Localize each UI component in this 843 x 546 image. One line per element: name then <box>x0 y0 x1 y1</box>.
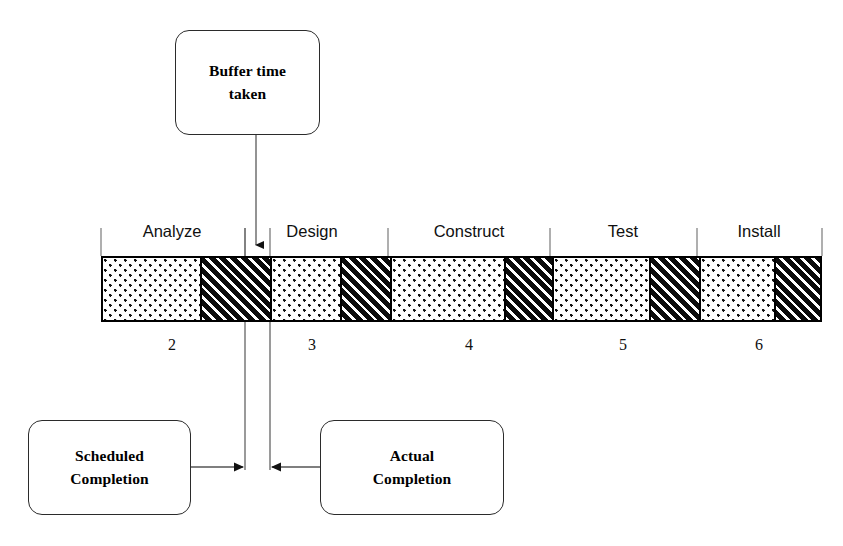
phase-timeline-bar <box>101 256 822 322</box>
segment-test-buffer <box>649 258 699 320</box>
scheduled-callout-line2: Completion <box>70 470 149 487</box>
buffer-time-taken-callout[interactable]: Buffer time taken <box>175 30 320 135</box>
tick-label-5: 5 <box>619 336 627 354</box>
tick-label-3: 3 <box>308 336 316 354</box>
tick-label-6: 6 <box>755 336 763 354</box>
segment-install-buffer <box>774 258 822 320</box>
scheduled-completion-callout[interactable]: Scheduled Completion <box>28 420 191 515</box>
actual-callout-line2: Completion <box>373 470 452 487</box>
tick-label-4: 4 <box>465 336 473 354</box>
buffer-callout-line2: taken <box>229 85 267 102</box>
segment-test-work <box>552 258 649 320</box>
segment-construct-work <box>390 258 504 320</box>
segment-construct-buffer <box>504 258 552 320</box>
phase-label-construct: Construct <box>434 222 505 241</box>
segment-design-work <box>270 258 340 320</box>
diagram-canvas: Analyze Design Construct Test Install 2 … <box>0 0 843 546</box>
actual-completion-callout[interactable]: Actual Completion <box>320 420 504 515</box>
segment-analyze-buffer <box>200 258 270 320</box>
phase-label-test: Test <box>608 222 638 241</box>
buffer-callout-line1: Buffer time <box>209 62 286 79</box>
phase-label-analyze: Analyze <box>143 222 202 241</box>
segment-install-work <box>699 258 774 320</box>
segment-design-buffer <box>340 258 390 320</box>
actual-callout-line1: Actual <box>390 447 435 464</box>
phase-label-install: Install <box>737 222 780 241</box>
phase-label-design: Design <box>286 222 337 241</box>
tick-label-2: 2 <box>168 336 176 354</box>
segment-analyze-work <box>103 258 200 320</box>
scheduled-callout-line1: Scheduled <box>75 447 144 464</box>
